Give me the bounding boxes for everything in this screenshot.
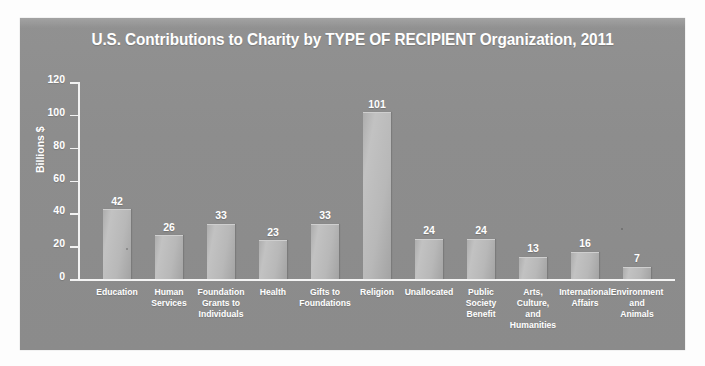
y-axis-tick-label: 120 xyxy=(47,74,65,85)
panel-sheen xyxy=(20,18,685,28)
chart-title: U.S. Contributions to Charity by TYPE OF… xyxy=(43,30,661,49)
bar-slot: 13 xyxy=(507,82,559,279)
bar[interactable] xyxy=(623,267,651,279)
bar-value-label: 33 xyxy=(311,210,339,221)
x-axis-line xyxy=(76,279,675,281)
bar-value-label: 33 xyxy=(207,210,235,221)
bar[interactable] xyxy=(155,235,183,279)
bar[interactable] xyxy=(207,224,235,279)
x-axis-category-label: EnvironmentandAnimals xyxy=(606,287,668,320)
bar-slot: 101 xyxy=(351,82,403,279)
y-axis-tick: 20 xyxy=(70,246,79,248)
bar-slot: 42 xyxy=(91,82,143,279)
scan-speck xyxy=(126,248,128,250)
bar[interactable] xyxy=(259,240,287,279)
y-axis-tick: 80 xyxy=(70,148,79,150)
bar-value-label: 7 xyxy=(623,253,651,264)
bar-value-label: 16 xyxy=(571,238,599,249)
bar-slot: 26 xyxy=(143,82,195,279)
bar[interactable] xyxy=(311,224,339,279)
y-axis-tick-label: 60 xyxy=(53,173,65,184)
bar-value-label: 101 xyxy=(363,99,391,110)
y-axis-tick: 0 xyxy=(70,279,79,281)
chart-panel: U.S. Contributions to Charity by TYPE OF… xyxy=(20,18,685,350)
bar[interactable] xyxy=(103,209,131,279)
bar-value-label: 24 xyxy=(415,225,443,236)
y-axis-tick: 40 xyxy=(70,213,79,215)
bar[interactable] xyxy=(363,112,391,279)
bar-slot: 33 xyxy=(195,82,247,279)
bar-slot: 7 xyxy=(611,82,663,279)
y-axis-tick-label: 20 xyxy=(53,238,65,249)
bar[interactable] xyxy=(467,239,495,279)
bar-value-label: 42 xyxy=(103,196,131,207)
y-axis-tick: 100 xyxy=(70,115,79,117)
y-axis-label: Billions $ xyxy=(34,126,46,173)
y-axis-tick-label: 80 xyxy=(53,140,65,151)
bar-slot: 24 xyxy=(403,82,455,279)
chart-screenshot: U.S. Contributions to Charity by TYPE OF… xyxy=(0,0,705,366)
y-axis-tick: 60 xyxy=(70,181,79,183)
bar-slot: 33 xyxy=(299,82,351,279)
bar-value-label: 23 xyxy=(259,227,287,238)
y-axis-tick-label: 100 xyxy=(47,107,65,118)
y-axis-tick-label: 40 xyxy=(53,205,65,216)
bar[interactable] xyxy=(519,257,547,279)
bar-slot: 16 xyxy=(559,82,611,279)
y-axis-tick-label: 0 xyxy=(59,271,65,282)
plot-area: 120100806040200 4226332333101242413167 E… xyxy=(78,82,675,279)
scan-speck xyxy=(621,228,623,230)
bar-value-label: 26 xyxy=(155,222,183,233)
y-axis-tick: 120 xyxy=(70,82,79,84)
bar-slot: 23 xyxy=(247,82,299,279)
bar-value-label: 13 xyxy=(519,243,547,254)
bar[interactable] xyxy=(415,239,443,279)
bar[interactable] xyxy=(571,252,599,279)
bar-slot: 24 xyxy=(455,82,507,279)
bar-value-label: 24 xyxy=(467,225,495,236)
